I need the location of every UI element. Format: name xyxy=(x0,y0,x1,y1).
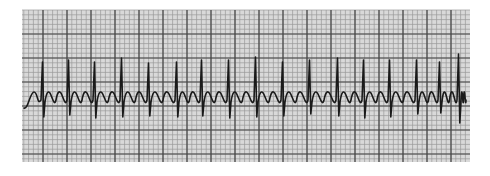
ecg-strip xyxy=(0,0,490,176)
